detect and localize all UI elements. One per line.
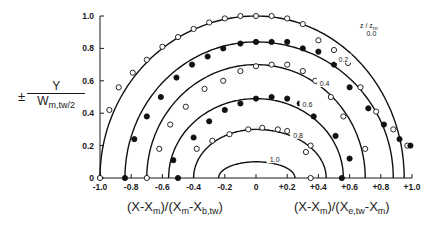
- x-tick-label: +1.0: [404, 182, 421, 192]
- curve-label: 0.2: [338, 56, 348, 63]
- open-point: [308, 175, 313, 180]
- filled-point: [339, 175, 344, 180]
- filled-point: [397, 137, 402, 142]
- open-point: [374, 109, 379, 114]
- curve-z-1.0: [219, 162, 295, 178]
- open-point: [285, 128, 290, 133]
- filled-point: [222, 107, 227, 112]
- open-point: [358, 85, 363, 90]
- open-point: [260, 125, 265, 130]
- x-tick-label: 0: [254, 182, 259, 192]
- chart-canvas: 00.20.40.60.81.0-1.0-0.8-0.6-0.4-0.20+0.…: [0, 0, 432, 228]
- x-axis-title-left: (X-Xm)/(Xm-Xb,tw): [127, 199, 223, 216]
- filled-point: [311, 114, 316, 119]
- open-point: [253, 64, 258, 69]
- y-tick-label: 1.0: [82, 11, 94, 21]
- y-label-denominator: Wm,tw/2: [37, 94, 75, 112]
- filled-point: [333, 133, 338, 138]
- filled-point: [238, 41, 243, 46]
- open-point: [222, 16, 227, 21]
- curve-label: 0.8: [293, 132, 303, 139]
- x-tick-label: -0.2: [217, 182, 232, 192]
- filled-point: [347, 156, 352, 161]
- open-point: [227, 132, 232, 137]
- filled-point: [144, 114, 149, 119]
- x-tick-label: -1.0: [93, 182, 108, 192]
- open-point: [341, 114, 346, 119]
- filled-point: [285, 39, 290, 44]
- open-point: [97, 175, 102, 180]
- open-point: [183, 104, 188, 109]
- filled-point: [331, 62, 336, 67]
- open-point: [168, 122, 173, 127]
- y-label-den-sub: m,tw/2: [49, 100, 76, 110]
- x-tick-label: +0.8: [372, 182, 389, 192]
- open-point: [303, 149, 308, 154]
- open-point: [391, 127, 396, 132]
- open-point: [202, 86, 207, 91]
- open-point: [269, 13, 274, 18]
- x-tick-label: -0.6: [155, 182, 170, 192]
- filled-point: [132, 137, 137, 142]
- x-tick-label: +0.4: [310, 182, 327, 192]
- open-point: [194, 146, 199, 151]
- filled-point: [122, 175, 127, 180]
- open-point: [160, 44, 165, 49]
- open-point: [175, 34, 180, 39]
- curve-z-0.0: [100, 16, 404, 178]
- filled-point: [238, 101, 243, 106]
- open-point: [363, 146, 368, 151]
- open-point: [144, 175, 149, 180]
- filled-point: [221, 46, 226, 51]
- filled-point: [253, 96, 258, 101]
- filled-point: [269, 94, 274, 99]
- open-point: [331, 47, 336, 52]
- open-point: [238, 13, 243, 18]
- open-point: [285, 62, 290, 67]
- y-tick-label: 0.8: [82, 43, 94, 53]
- open-point: [275, 127, 280, 132]
- x-tick-label: +0.6: [341, 182, 358, 192]
- y-label-numerator: Y: [52, 80, 60, 93]
- curves: [100, 16, 404, 178]
- y-tick-label: 0.2: [82, 141, 94, 151]
- filled-point: [174, 75, 179, 80]
- filled-point: [381, 122, 386, 127]
- filled-point: [253, 39, 258, 44]
- open-point: [328, 94, 333, 99]
- open-point: [210, 138, 215, 143]
- filled-point: [189, 62, 194, 67]
- filled-point: [285, 96, 290, 101]
- open-point: [300, 22, 305, 27]
- x-axis-title-right: (X-Xm)/(Xe,tw-Xm): [294, 199, 390, 216]
- y-axis-label: ± Y Wm,tw/2: [18, 80, 85, 112]
- open-point: [221, 78, 226, 83]
- x-tick-label: -0.8: [124, 182, 139, 192]
- open-point: [269, 62, 274, 67]
- curve-z-0.2: [125, 42, 393, 178]
- open-point: [207, 20, 212, 25]
- plus-minus-sign: ±: [18, 89, 25, 104]
- curve-label: 0.6: [303, 101, 313, 108]
- open-point: [253, 13, 258, 18]
- open-point: [130, 70, 135, 75]
- open-point: [300, 68, 305, 73]
- x-tick-label: +0.2: [279, 182, 296, 192]
- open-point: [238, 68, 243, 73]
- x-tick-label: -0.4: [186, 182, 201, 192]
- filled-point: [171, 158, 176, 163]
- open-point: [316, 38, 321, 43]
- filled-point: [300, 46, 305, 51]
- filled-point: [207, 119, 212, 124]
- open-point: [285, 16, 290, 21]
- curve-label: 0.4: [320, 80, 330, 87]
- open-point: [144, 57, 149, 62]
- filled-point: [347, 85, 352, 90]
- filled-point: [205, 54, 210, 59]
- open-point: [157, 146, 162, 151]
- filled-point: [191, 135, 196, 140]
- open-point: [191, 26, 196, 31]
- filled-point: [366, 106, 371, 111]
- filled-point: [269, 39, 274, 44]
- y-label-den-main: W: [37, 94, 48, 108]
